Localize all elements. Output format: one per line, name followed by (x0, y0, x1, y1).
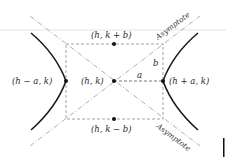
hyperbola-diagram: (h, k + b) (h, k − b) (h, k) (h − a, k) … (0, 0, 226, 160)
left-vertex-point (64, 79, 68, 83)
bottom-point (112, 117, 116, 121)
top-point (112, 42, 116, 46)
semi-axis-b-label: b (153, 58, 158, 68)
top-point-label: (h, k + b) (91, 30, 132, 40)
edge-marker (223, 138, 225, 157)
center-point (112, 79, 116, 83)
left-vertex-label: (h − a, k) (12, 76, 52, 86)
center-label: (h, k) (81, 76, 104, 86)
right-vertex-label: (h + a, k) (169, 76, 209, 86)
asymptote-upper-label: Asymptote (153, 10, 192, 42)
bottom-point-label: (h, k − b) (91, 124, 132, 134)
semi-axis-a-label: a (137, 70, 142, 80)
right-vertex-point (161, 79, 165, 83)
